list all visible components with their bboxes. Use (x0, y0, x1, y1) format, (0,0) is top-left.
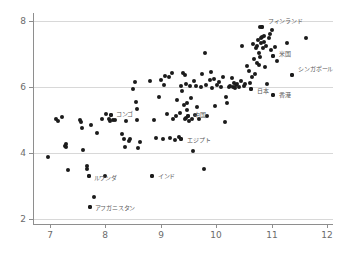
data-point (95, 131, 99, 135)
data-point (258, 55, 262, 59)
data-point-label: コンゴ (116, 110, 133, 117)
x-tick-label: 7 (40, 231, 60, 240)
data-point (209, 70, 213, 74)
data-point (104, 112, 108, 116)
data-point (100, 117, 104, 121)
data-point-label: エジプト (187, 136, 210, 143)
y-tick-mark (29, 153, 33, 154)
data-point (81, 148, 85, 152)
data-point (123, 145, 127, 149)
gridline-y (34, 153, 333, 154)
data-point (136, 146, 140, 150)
data-point-labeled (88, 205, 92, 209)
data-point (138, 140, 142, 144)
data-point (180, 89, 184, 93)
data-point (92, 195, 96, 199)
data-point (64, 145, 68, 149)
x-tick-mark (272, 224, 273, 228)
data-point (275, 59, 279, 63)
data-point-label: インド (158, 172, 175, 179)
data-point (56, 119, 60, 123)
data-point (237, 85, 241, 89)
data-point (245, 64, 249, 68)
y-tick-label: 6 (0, 83, 26, 92)
data-point (80, 126, 84, 130)
scatter-plot-screenshot: 2468789101112フィンランド米国シンガポール日本香港コンゴ中国エジプト… (0, 0, 342, 257)
data-point (174, 114, 178, 118)
data-point (189, 96, 193, 100)
data-point (225, 101, 229, 105)
data-point (185, 101, 189, 105)
data-point (192, 79, 196, 83)
data-point (154, 136, 158, 140)
y-tick-label: 2 (0, 215, 26, 224)
data-point (152, 118, 156, 122)
data-point (179, 84, 183, 88)
data-point (223, 120, 227, 124)
data-point (212, 77, 216, 81)
y-tick-mark (29, 219, 33, 220)
data-point (66, 168, 70, 172)
data-point-label: 中国 (194, 111, 206, 118)
y-axis-line (33, 13, 34, 225)
data-point (175, 98, 179, 102)
data-point-label: フィンランド (268, 17, 303, 24)
x-tick-label: 12 (317, 231, 337, 240)
data-point (230, 76, 234, 80)
data-point (165, 112, 169, 116)
data-point (161, 137, 165, 141)
data-point-labeled (271, 54, 275, 58)
data-point (122, 137, 126, 141)
data-point (247, 69, 251, 73)
data-point (135, 118, 139, 122)
data-point (167, 75, 171, 79)
plot-area: 2468789101112フィンランド米国シンガポール日本香港コンゴ中国エジプト… (0, 0, 342, 257)
x-tick-label: 8 (95, 231, 115, 240)
data-point (170, 71, 174, 75)
data-point (79, 120, 83, 124)
data-point-label: 日本 (257, 87, 269, 94)
data-point (131, 87, 135, 91)
data-point (199, 85, 203, 89)
data-point-label: 米国 (279, 50, 291, 57)
data-point (239, 79, 243, 83)
data-point (224, 95, 228, 99)
data-point (217, 80, 221, 84)
data-point-label: アフガニスタン (95, 204, 136, 211)
x-tick-label: 10 (206, 231, 226, 240)
data-point (85, 167, 89, 171)
data-point (203, 51, 207, 55)
data-point (200, 72, 204, 76)
data-point (210, 86, 214, 90)
data-point (173, 138, 177, 142)
data-point (219, 85, 223, 89)
data-point (195, 105, 199, 109)
data-point-label: ルワンダ (94, 174, 117, 181)
data-point (148, 79, 152, 83)
data-point (257, 63, 261, 67)
data-point (133, 80, 137, 84)
gridline-y (34, 219, 333, 220)
data-point (202, 167, 206, 171)
data-point (168, 136, 172, 140)
data-point (213, 104, 217, 108)
data-point (273, 45, 277, 49)
data-point (60, 115, 64, 119)
data-point (285, 41, 289, 45)
data-point-labeled (260, 25, 264, 29)
data-point (162, 83, 166, 87)
data-point (134, 100, 138, 104)
data-point (255, 44, 259, 48)
data-point (188, 84, 192, 88)
data-point (159, 78, 163, 82)
data-point (263, 65, 267, 69)
y-tick-mark (29, 21, 33, 22)
y-tick-label: 4 (0, 149, 26, 158)
x-axis-line (33, 224, 333, 225)
x-tick-mark (216, 224, 217, 228)
data-point (270, 28, 274, 32)
data-point (269, 48, 273, 52)
data-point (243, 82, 247, 86)
y-tick-label: 8 (0, 17, 26, 26)
data-point (264, 44, 268, 48)
